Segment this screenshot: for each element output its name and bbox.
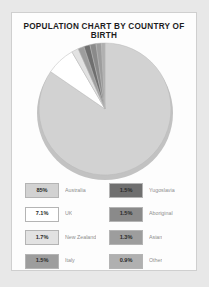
legend-swatch: 85%: [25, 183, 59, 198]
legend-value: 1.5%: [120, 188, 133, 194]
legend-value: 1.7%: [36, 235, 49, 241]
legend-swatch: 1.5%: [109, 207, 143, 222]
legend-value: 85%: [36, 188, 47, 194]
legend-item: 1.5%Yugoslavia: [109, 181, 187, 200]
legend-label: Yugoslavia: [149, 188, 175, 193]
legend-label: Aboriginal: [149, 211, 173, 216]
legend-item: 0.9%Other: [109, 252, 187, 271]
legend-swatch: 1.5%: [109, 183, 143, 198]
legend-label: Other: [149, 258, 162, 263]
pie-slice-group: [39, 43, 171, 175]
legend-value: 1.5%: [120, 211, 133, 217]
legend-item: 85%Australia: [25, 181, 103, 200]
legend-label: New Zealand: [65, 235, 96, 240]
legend-label: Australia: [65, 188, 86, 193]
legend-item: 1.7%New Zealand: [25, 228, 103, 247]
legend-item: 1.5%Aboriginal: [109, 205, 187, 224]
legend-value: 1.5%: [36, 258, 49, 264]
legend-label: UK: [65, 211, 72, 216]
pie-chart-area: [12, 37, 198, 182]
legend-item: 1.5%Italy: [25, 252, 103, 271]
legend-label: Asian: [149, 235, 162, 240]
legend-label: Italy: [65, 258, 75, 263]
pie-chart: [30, 37, 180, 182]
chart-legend: 85%Australia1.5%Yugoslavia7.1%UK1.5%Abor…: [25, 181, 187, 271]
legend-swatch: 0.9%: [109, 254, 143, 269]
legend-item: 1.3%Asian: [109, 228, 187, 247]
legend-value: 7.1%: [36, 211, 49, 217]
legend-swatch: 1.3%: [109, 230, 143, 245]
legend-swatch: 1.7%: [25, 230, 59, 245]
legend-item: 7.1%UK: [25, 205, 103, 224]
legend-swatch: 7.1%: [25, 207, 59, 222]
chart-card: POPULATION CHART BY COUNTRY OF BIRTH 85%…: [11, 12, 197, 271]
legend-swatch: 1.5%: [25, 254, 59, 269]
legend-value: 0.9%: [120, 258, 133, 264]
legend-value: 1.3%: [120, 235, 133, 241]
